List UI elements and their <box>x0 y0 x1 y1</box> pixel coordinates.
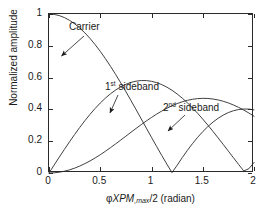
plot-area <box>48 13 253 172</box>
annotation-carrier: Carrier <box>69 22 100 32</box>
x-tick-top-1 <box>100 14 101 18</box>
curve-2 <box>49 81 254 173</box>
y-axis-label: Normalized amplitude <box>8 0 19 118</box>
y-tick-3 <box>49 78 53 79</box>
x-tick-4 <box>254 167 255 171</box>
y-tick-right-2 <box>248 109 252 110</box>
x-tick-label-0: 0 <box>28 176 68 186</box>
curve-3 <box>49 98 254 173</box>
x-tick-3 <box>203 167 204 171</box>
x-tick-label-4: 2 <box>233 176 269 186</box>
x-tick-1 <box>100 167 101 171</box>
x-tick-2 <box>152 167 153 171</box>
x-axis-label: φXPM,max/2 (radian) <box>48 193 253 206</box>
x-tick-top-4 <box>254 14 255 18</box>
x-tick-top-0 <box>49 14 50 18</box>
x-tick-label-3: 1.5 <box>182 176 222 186</box>
y-tick-1 <box>49 141 53 142</box>
y-tick-right-4 <box>248 46 252 47</box>
annotation-first-sideband: 1st sideband <box>105 82 159 92</box>
curve-1 <box>49 14 254 173</box>
x-tick-label-2: 1 <box>131 176 171 186</box>
annotation-second-sideband: 2nd sideband <box>163 103 219 113</box>
y-tick-0 <box>49 173 53 174</box>
x-tick-label-1: 0.5 <box>79 176 119 186</box>
x-tick-top-2 <box>152 14 153 18</box>
x-tick-top-3 <box>203 14 204 18</box>
radian-text: /2 (radian) <box>149 193 195 204</box>
y-tick-right-1 <box>248 141 252 142</box>
x-tick-0 <box>49 167 50 171</box>
y-tick-4 <box>49 46 53 47</box>
y-tick-right-3 <box>248 78 252 79</box>
y-tick-right-5 <box>248 14 252 15</box>
figure-container: 00.20.40.60.81 00.511.52 Normalized ampl… <box>0 0 269 219</box>
y-tick-right-0 <box>248 173 252 174</box>
xpm-italic: XPM <box>113 193 135 204</box>
y-tick-2 <box>49 109 53 110</box>
y-tick-label-1: 0.2 <box>2 135 42 145</box>
max-subscript: ,max <box>134 197 149 204</box>
curves-svg <box>49 14 254 173</box>
